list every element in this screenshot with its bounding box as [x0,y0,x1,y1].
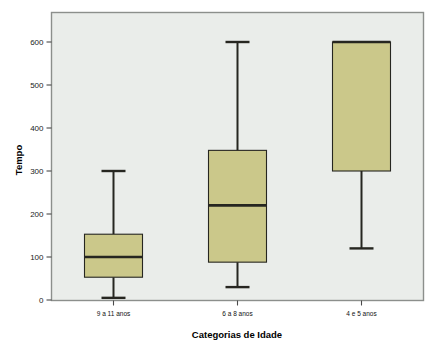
y-axis-title: Tempo [13,145,24,176]
y-axis-tick-label: 300 [30,167,44,176]
x-axis-category-label: 6 a 8 anos [222,310,253,317]
y-axis-tick-label: 600 [30,38,44,47]
y-axis-tick-label: 200 [30,210,44,219]
y-axis-title-group: Tempo [13,145,24,176]
y-axis-tick-label: 500 [30,81,44,90]
y-axis-tick-label: 100 [30,253,44,262]
x-axis-title: Categorias de Idade [192,329,282,340]
x-axis-category-label: 4 e 5 anos [346,310,377,317]
boxplot-canvas: 0100200300400500600 Tempo 9 a 11 anos6 a… [0,0,432,345]
x-axis-category-label: 9 a 11 anos [97,310,131,317]
box-iqr-rect [333,42,391,171]
y-axis-tick-label: 400 [30,124,44,133]
boxplot-chart: 0100200300400500600 Tempo 9 a 11 anos6 a… [0,0,432,345]
y-axis-tick-label: 0 [39,296,44,305]
